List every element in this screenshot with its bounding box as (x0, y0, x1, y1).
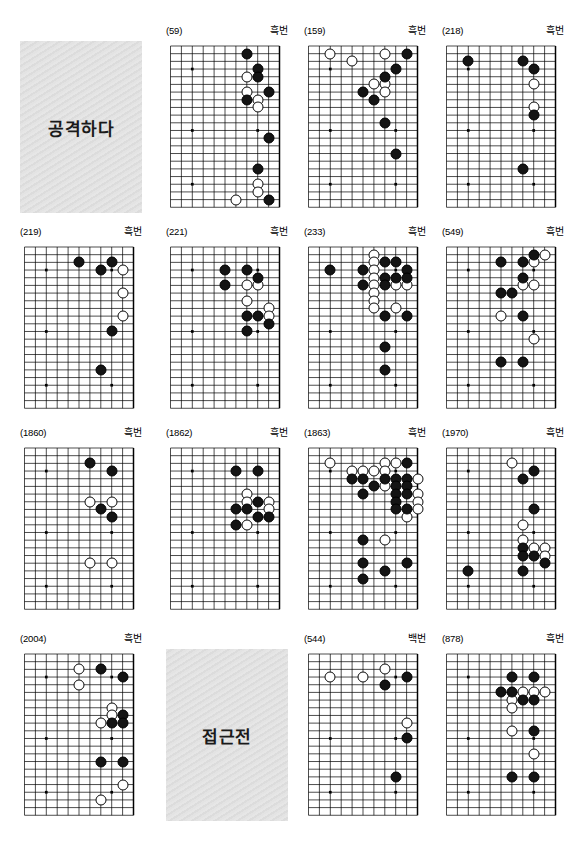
black-stone[interactable] (358, 535, 369, 546)
white-stone[interactable] (539, 687, 550, 698)
white-stone[interactable] (95, 718, 106, 729)
black-stone[interactable] (252, 272, 263, 283)
black-stone[interactable] (528, 110, 539, 121)
black-stone[interactable] (95, 364, 106, 375)
black-stone[interactable] (539, 558, 550, 569)
white-stone[interactable] (506, 725, 517, 736)
black-stone[interactable] (517, 311, 528, 322)
white-stone[interactable] (528, 748, 539, 759)
white-stone[interactable] (230, 194, 241, 205)
white-stone[interactable] (517, 519, 528, 530)
white-stone[interactable] (390, 303, 401, 314)
black-stone[interactable] (358, 489, 369, 500)
black-stone[interactable] (517, 56, 528, 67)
white-stone[interactable] (74, 679, 85, 690)
black-stone[interactable] (463, 565, 474, 576)
black-stone[interactable] (517, 357, 528, 368)
white-stone[interactable] (325, 48, 336, 59)
black-stone[interactable] (390, 272, 401, 283)
black-stone[interactable] (401, 672, 412, 683)
black-stone[interactable] (496, 257, 507, 268)
white-stone[interactable] (241, 519, 252, 530)
white-stone[interactable] (496, 311, 507, 322)
black-stone[interactable] (379, 280, 390, 291)
black-stone[interactable] (528, 249, 539, 260)
black-stone[interactable] (106, 466, 117, 477)
black-stone[interactable] (358, 558, 369, 569)
black-stone[interactable] (506, 288, 517, 299)
go-board[interactable] (20, 242, 142, 414)
white-stone[interactable] (241, 71, 252, 82)
black-stone[interactable] (379, 71, 390, 82)
black-stone[interactable] (528, 466, 539, 477)
black-stone[interactable] (379, 341, 390, 352)
black-stone[interactable] (379, 364, 390, 375)
black-stone[interactable] (263, 512, 274, 523)
black-stone[interactable] (401, 733, 412, 744)
black-stone[interactable] (379, 565, 390, 576)
black-stone[interactable] (106, 326, 117, 337)
go-board[interactable] (20, 443, 142, 615)
go-board[interactable] (442, 41, 564, 213)
black-stone[interactable] (241, 311, 252, 322)
black-stone[interactable] (95, 265, 106, 276)
black-stone[interactable] (230, 519, 241, 530)
white-stone[interactable] (528, 79, 539, 90)
black-stone[interactable] (263, 194, 274, 205)
black-stone[interactable] (368, 481, 379, 492)
black-stone[interactable] (95, 664, 106, 675)
black-stone[interactable] (252, 496, 263, 507)
go-board[interactable] (166, 41, 288, 213)
go-board[interactable] (166, 242, 288, 414)
black-stone[interactable] (528, 504, 539, 515)
black-stone[interactable] (358, 87, 369, 98)
white-stone[interactable] (84, 496, 95, 507)
black-stone[interactable] (496, 357, 507, 368)
white-stone[interactable] (241, 280, 252, 291)
black-stone[interactable] (528, 64, 539, 75)
black-stone[interactable] (401, 558, 412, 569)
go-board[interactable] (20, 649, 142, 821)
white-stone[interactable] (528, 280, 539, 291)
white-stone[interactable] (412, 504, 423, 515)
black-stone[interactable] (95, 756, 106, 767)
black-stone[interactable] (220, 265, 231, 276)
white-stone[interactable] (368, 79, 379, 90)
black-stone[interactable] (528, 672, 539, 683)
white-stone[interactable] (252, 102, 263, 113)
black-stone[interactable] (390, 771, 401, 782)
black-stone[interactable] (241, 504, 252, 515)
black-stone[interactable] (106, 718, 117, 729)
white-stone[interactable] (117, 288, 128, 299)
black-stone[interactable] (528, 695, 539, 706)
go-board[interactable] (304, 649, 426, 821)
black-stone[interactable] (230, 504, 241, 515)
white-stone[interactable] (390, 458, 401, 469)
black-stone[interactable] (379, 473, 390, 484)
white-stone[interactable] (325, 672, 336, 683)
black-stone[interactable] (506, 672, 517, 683)
black-stone[interactable] (230, 466, 241, 477)
black-stone[interactable] (379, 679, 390, 690)
white-stone[interactable] (74, 664, 85, 675)
black-stone[interactable] (252, 512, 263, 523)
white-stone[interactable] (379, 535, 390, 546)
black-stone[interactable] (252, 311, 263, 322)
black-stone[interactable] (379, 311, 390, 322)
black-stone[interactable] (401, 272, 412, 283)
white-stone[interactable] (325, 458, 336, 469)
white-stone[interactable] (368, 303, 379, 314)
white-stone[interactable] (358, 672, 369, 683)
black-stone[interactable] (496, 687, 507, 698)
black-stone[interactable] (241, 48, 252, 59)
black-stone[interactable] (401, 48, 412, 59)
black-stone[interactable] (252, 163, 263, 174)
black-stone[interactable] (517, 565, 528, 576)
black-stone[interactable] (220, 280, 231, 291)
white-stone[interactable] (379, 664, 390, 675)
black-stone[interactable] (117, 718, 128, 729)
black-stone[interactable] (390, 64, 401, 75)
black-stone[interactable] (241, 265, 252, 276)
go-board[interactable] (304, 242, 426, 414)
black-stone[interactable] (106, 257, 117, 268)
